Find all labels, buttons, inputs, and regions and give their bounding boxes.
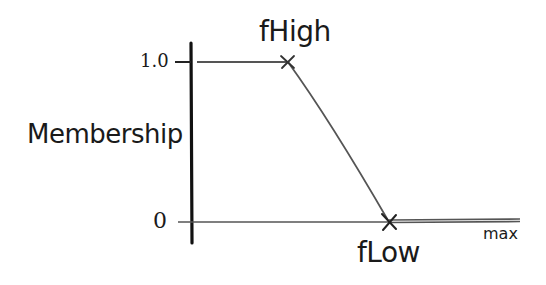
y-axis: [191, 43, 192, 243]
x-axis-max-label: max: [483, 226, 518, 242]
y-axis-label: Membership: [27, 121, 183, 147]
y-tick-zero-label: 0: [153, 210, 167, 232]
y-tick-one-label: 1.0: [140, 52, 169, 70]
membership-tail-upper: [389, 219, 520, 220]
membership-tail-lower: [389, 222, 520, 223]
membership-slope: [288, 62, 389, 222]
fhigh-label: fHigh: [259, 18, 331, 46]
membership-diagram: Membership 1.0 0 fHigh fLow max: [0, 0, 546, 285]
flow-label: fLow: [357, 239, 420, 267]
